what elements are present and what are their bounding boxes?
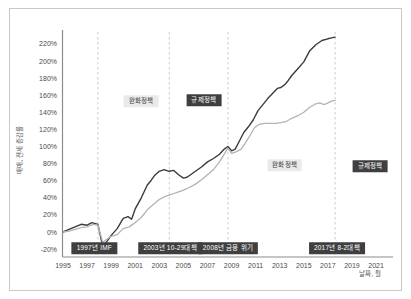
policy-label: 완화정책: [267, 160, 302, 172]
event-label: 1997년 IMF: [72, 242, 117, 254]
event-label: 2008년 금융 위기: [198, 242, 258, 254]
chart-figure: 220%200%180%160%140%120%100%80%60%40%20%…: [0, 0, 411, 299]
y-axis-title-text: 매매, 전세 증감률: [14, 126, 24, 173]
event-label: 2017년 8-2대책: [309, 242, 365, 254]
annotation-layer: 완화정책규제정책완화정책규제정책1997년 IMF2003년 10-29대책20…: [0, 0, 411, 299]
policy-label: 완화정책: [124, 95, 159, 107]
event-label: 2003년 10-29대책: [138, 242, 202, 254]
policy-label: 규제정책: [353, 160, 388, 172]
y-axis-title: 매매, 전세 증감률: [14, 110, 24, 190]
x-axis-title: 날짜, 월: [359, 268, 381, 278]
policy-label: 규제정책: [186, 95, 221, 107]
